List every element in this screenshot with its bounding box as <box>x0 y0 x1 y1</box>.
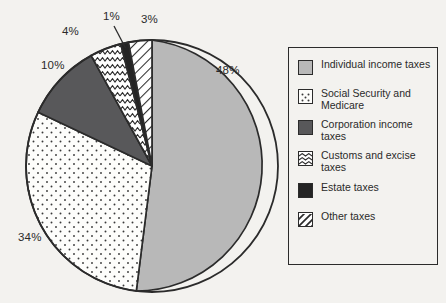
solid-black-swatch <box>298 183 313 198</box>
pie-chart: 48% 34% 10% 4% 1% 3% <box>0 0 290 303</box>
legend-label-other: Other taxes <box>321 210 375 223</box>
pie-label-individual-income: 48% <box>216 64 240 76</box>
solid-dark-gray-swatch <box>298 120 313 135</box>
chart-legend: Individual income taxes Social Security … <box>288 47 438 265</box>
legend-item-estate[interactable]: Estate taxes <box>298 181 432 203</box>
diagonal-hatch-swatch <box>298 212 313 227</box>
legend-list: Individual income taxes Social Security … <box>298 58 432 239</box>
solid-light-gray-swatch <box>298 60 313 75</box>
chart-canvas: 48% 34% 10% 4% 1% 3% Individual income t… <box>0 0 446 303</box>
legend-item-corporation[interactable]: Corporation income taxes <box>298 118 432 142</box>
legend-label-individual-income: Individual income taxes <box>321 58 430 71</box>
legend-label-social-security: Social Security and Medicare <box>321 87 432 111</box>
zigzag-swatch <box>298 151 313 166</box>
pie-label-corporation: 10% <box>41 59 65 71</box>
pie-label-other: 3% <box>141 13 158 25</box>
legend-label-corporation: Corporation income taxes <box>321 118 432 142</box>
pie-chart-svg <box>0 0 290 303</box>
legend-label-customs-excise: Customs and excise taxes <box>321 149 432 173</box>
pie-label-customs-excise: 4% <box>62 25 79 37</box>
legend-item-social-security[interactable]: Social Security and Medicare <box>298 87 432 111</box>
legend-item-individual-income[interactable]: Individual income taxes <box>298 58 432 80</box>
legend-item-other[interactable]: Other taxes <box>298 210 432 232</box>
legend-label-estate: Estate taxes <box>321 181 379 194</box>
diagonal-hatch-swatch-pattern <box>299 214 312 227</box>
dotted-swatch <box>298 89 313 104</box>
dotted-swatch-pattern <box>299 91 312 104</box>
pie-label-estate: 1% <box>103 10 120 22</box>
pie-label-social-security: 34% <box>18 231 42 243</box>
zigzag-swatch-pattern <box>299 153 312 166</box>
legend-item-customs-excise[interactable]: Customs and excise taxes <box>298 149 432 173</box>
